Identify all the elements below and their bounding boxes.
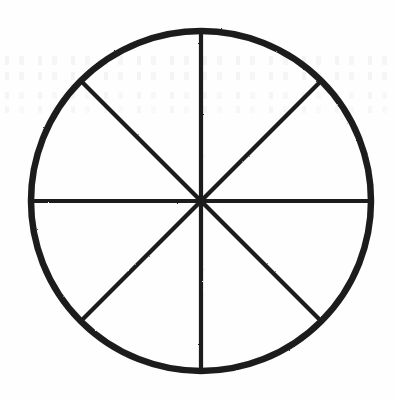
eight-sector-circle-diagram bbox=[0, 0, 396, 401]
figure-canvas: Circle divided into eight equal sectors … bbox=[0, 0, 396, 401]
center-hub bbox=[196, 196, 207, 207]
